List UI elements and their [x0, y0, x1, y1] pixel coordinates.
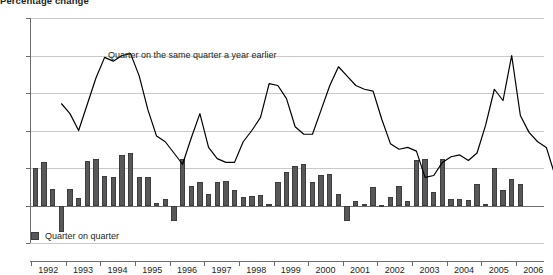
chart-legend: Quarter on quarter	[31, 231, 119, 241]
plot-area: -1012345 1992199319941995199619971998199…	[30, 18, 544, 243]
x-axis-line	[30, 261, 544, 262]
year-on-year-polyline	[61, 54, 553, 178]
gridline--1	[30, 243, 544, 244]
x-tick-label-2006: 2006	[513, 265, 553, 275]
legend-swatch-icon	[31, 232, 39, 240]
legend-label-quarter-on-quarter: Quarter on quarter	[45, 231, 119, 241]
line-annotation-label: Quarter on the same quarter a year earli…	[108, 50, 277, 60]
y-tick-mark--1	[26, 243, 30, 244]
chart-title: Percentage change	[0, 0, 89, 6]
